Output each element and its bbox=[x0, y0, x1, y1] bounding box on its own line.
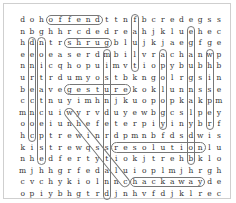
grid-cell[interactable]: u bbox=[65, 72, 74, 84]
grid-cell[interactable]: k bbox=[177, 95, 186, 107]
grid-cell[interactable]: s bbox=[214, 14, 223, 26]
grid-cell[interactable]: j bbox=[149, 26, 158, 38]
grid-cell[interactable]: d bbox=[102, 26, 111, 38]
grid-cell[interactable]: h bbox=[18, 37, 27, 49]
grid-cell[interactable]: s bbox=[196, 84, 205, 96]
grid-cell[interactable]: w bbox=[177, 176, 186, 188]
grid-cell[interactable]: s bbox=[93, 142, 102, 154]
grid-cell[interactable]: f bbox=[158, 130, 167, 142]
grid-cell[interactable]: h bbox=[65, 188, 74, 200]
grid-cell[interactable]: c bbox=[149, 176, 158, 188]
grid-cell[interactable]: j bbox=[27, 165, 36, 177]
grid-cell[interactable]: i bbox=[74, 95, 83, 107]
grid-cell[interactable]: o bbox=[93, 72, 102, 84]
grid-cell[interactable]: s bbox=[37, 142, 46, 154]
grid-cell[interactable]: y bbox=[158, 118, 167, 130]
grid-cell[interactable]: g bbox=[186, 72, 195, 84]
grid-cell[interactable]: o bbox=[27, 118, 36, 130]
grid-cell[interactable]: t bbox=[37, 72, 46, 84]
grid-cell[interactable]: d bbox=[102, 188, 111, 200]
grid-cell[interactable]: f bbox=[130, 14, 139, 26]
grid-cell[interactable]: n bbox=[46, 95, 55, 107]
grid-cell[interactable]: e bbox=[74, 14, 83, 26]
grid-cell[interactable]: d bbox=[46, 153, 55, 165]
grid-cell[interactable]: i bbox=[168, 118, 177, 130]
grid-cell[interactable]: h bbox=[130, 188, 139, 200]
grid-cell[interactable]: o bbox=[83, 176, 92, 188]
grid-cell[interactable]: p bbox=[139, 118, 148, 130]
grid-cell[interactable]: y bbox=[83, 72, 92, 84]
grid-cell[interactable]: h bbox=[65, 60, 74, 72]
grid-cell[interactable]: d bbox=[18, 14, 27, 26]
grid-cell[interactable]: m bbox=[214, 95, 223, 107]
grid-cell[interactable]: b bbox=[55, 188, 64, 200]
grid-cell[interactable]: n bbox=[111, 176, 120, 188]
grid-cell[interactable]: b bbox=[177, 60, 186, 72]
grid-cell[interactable]: h bbox=[55, 26, 64, 38]
grid-cell[interactable]: e bbox=[74, 49, 83, 61]
grid-cell[interactable]: p bbox=[149, 165, 158, 177]
grid-cell[interactable]: b bbox=[149, 130, 158, 142]
grid-cell[interactable]: y bbox=[196, 176, 205, 188]
grid-cell[interactable]: i bbox=[74, 176, 83, 188]
grid-cell[interactable]: i bbox=[121, 49, 130, 61]
grid-cell[interactable]: d bbox=[93, 165, 102, 177]
grid-cell[interactable]: f bbox=[55, 153, 64, 165]
grid-cell[interactable]: l bbox=[205, 142, 214, 154]
grid-cell[interactable]: r bbox=[93, 188, 102, 200]
grid-cell[interactable]: d bbox=[27, 37, 36, 49]
grid-cell[interactable]: n bbox=[121, 188, 130, 200]
grid-cell[interactable]: i bbox=[205, 72, 214, 84]
grid-cell[interactable]: n bbox=[65, 118, 74, 130]
grid-cell[interactable]: f bbox=[214, 118, 223, 130]
grid-cell[interactable]: h bbox=[46, 165, 55, 177]
grid-cell[interactable]: k bbox=[121, 95, 130, 107]
grid-cell[interactable]: e bbox=[168, 153, 177, 165]
grid-cell[interactable]: u bbox=[121, 165, 130, 177]
grid-cell[interactable]: i bbox=[37, 60, 46, 72]
grid-cell[interactable]: m bbox=[111, 60, 120, 72]
grid-cell[interactable]: t bbox=[111, 118, 120, 130]
grid-cell[interactable]: y bbox=[74, 107, 83, 119]
grid-cell[interactable]: b bbox=[139, 14, 148, 26]
grid-cell[interactable]: h bbox=[196, 26, 205, 38]
grid-cell[interactable]: p bbox=[214, 49, 223, 61]
grid-cell[interactable]: b bbox=[214, 60, 223, 72]
grid-cell[interactable]: e bbox=[18, 49, 27, 61]
grid-cell[interactable]: o bbox=[46, 14, 55, 26]
grid-cell[interactable]: e bbox=[121, 142, 130, 154]
grid-cell[interactable]: h bbox=[177, 49, 186, 61]
grid-cell[interactable]: e bbox=[83, 118, 92, 130]
grid-cell[interactable]: e bbox=[186, 14, 195, 26]
grid-cell[interactable]: e bbox=[168, 14, 177, 26]
grid-cell[interactable]: p bbox=[205, 95, 214, 107]
grid-cell[interactable]: i bbox=[55, 107, 64, 119]
grid-cell[interactable]: u bbox=[93, 60, 102, 72]
grid-cell[interactable]: o bbox=[186, 142, 195, 154]
grid-cell[interactable]: g bbox=[205, 165, 214, 177]
grid-cell[interactable]: v bbox=[46, 84, 55, 96]
grid-cell[interactable]: l bbox=[158, 165, 167, 177]
grid-cell[interactable]: n bbox=[186, 84, 195, 96]
grid-cell[interactable]: s bbox=[214, 130, 223, 142]
grid-cell[interactable]: t bbox=[83, 188, 92, 200]
grid-cell[interactable]: h bbox=[205, 60, 214, 72]
grid-cell[interactable]: c bbox=[149, 14, 158, 26]
grid-cell[interactable]: l bbox=[130, 49, 139, 61]
grid-cell[interactable]: g bbox=[102, 37, 111, 49]
grid-cell[interactable]: y bbox=[55, 176, 64, 188]
grid-cell[interactable]: p bbox=[158, 60, 167, 72]
grid-cell[interactable]: o bbox=[27, 14, 36, 26]
grid-cell[interactable]: e bbox=[65, 130, 74, 142]
grid-cell[interactable]: e bbox=[214, 176, 223, 188]
grid-cell[interactable]: s bbox=[205, 84, 214, 96]
grid-cell[interactable]: b bbox=[27, 26, 36, 38]
grid-cell[interactable]: m bbox=[18, 165, 27, 177]
grid-cell[interactable]: r bbox=[83, 49, 92, 61]
grid-cell[interactable]: h bbox=[139, 26, 148, 38]
grid-cell[interactable]: n bbox=[27, 107, 36, 119]
grid-cell[interactable]: r bbox=[111, 26, 120, 38]
grid-cell[interactable]: g bbox=[74, 188, 83, 200]
grid-cell[interactable]: k bbox=[149, 84, 158, 96]
grid-cell[interactable]: s bbox=[102, 72, 111, 84]
